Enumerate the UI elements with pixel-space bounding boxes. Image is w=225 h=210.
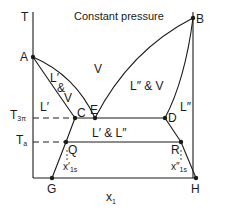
region-l1-v-v: V	[64, 91, 72, 105]
point-d-marker	[163, 116, 167, 120]
region-l2-v: L″ & V	[130, 79, 164, 93]
point-c-label: C	[77, 106, 86, 120]
y-axis-label: T	[21, 10, 29, 24]
diagram-title: Constant pressure	[74, 10, 164, 22]
point-g-marker	[50, 176, 54, 180]
x1s-prime-label: x′1s	[63, 161, 78, 173]
point-q-label: Q	[68, 143, 77, 157]
point-d-label: D	[168, 111, 177, 125]
curve-e-b	[95, 18, 193, 118]
region-l1-l2: L′ & L″	[92, 126, 127, 140]
region-vapor: V	[94, 62, 102, 76]
ta-label: Ta	[16, 133, 27, 147]
point-g-label: G	[47, 182, 56, 196]
point-h-marker	[194, 176, 198, 180]
dashed-temperature-lines	[33, 118, 75, 142]
point-r-label: R	[171, 143, 180, 157]
point-b-label: B	[196, 12, 204, 26]
region-l1: L′	[40, 100, 50, 114]
point-e-label: E	[90, 103, 98, 117]
region-l2: L″	[180, 100, 192, 114]
x1s-dprime-label: x″1s	[171, 161, 187, 173]
composition-ticks	[67, 150, 181, 160]
point-h-label: H	[191, 182, 200, 196]
x-axis-label: x1	[106, 190, 116, 205]
point-a-label: A	[20, 50, 28, 64]
t3pi-label: T3π	[10, 108, 26, 122]
point-a-marker	[31, 55, 35, 59]
phase-diagram: Constant pressure T x1 T3π Ta A B C E D …	[0, 0, 225, 210]
point-b-marker	[191, 16, 195, 20]
